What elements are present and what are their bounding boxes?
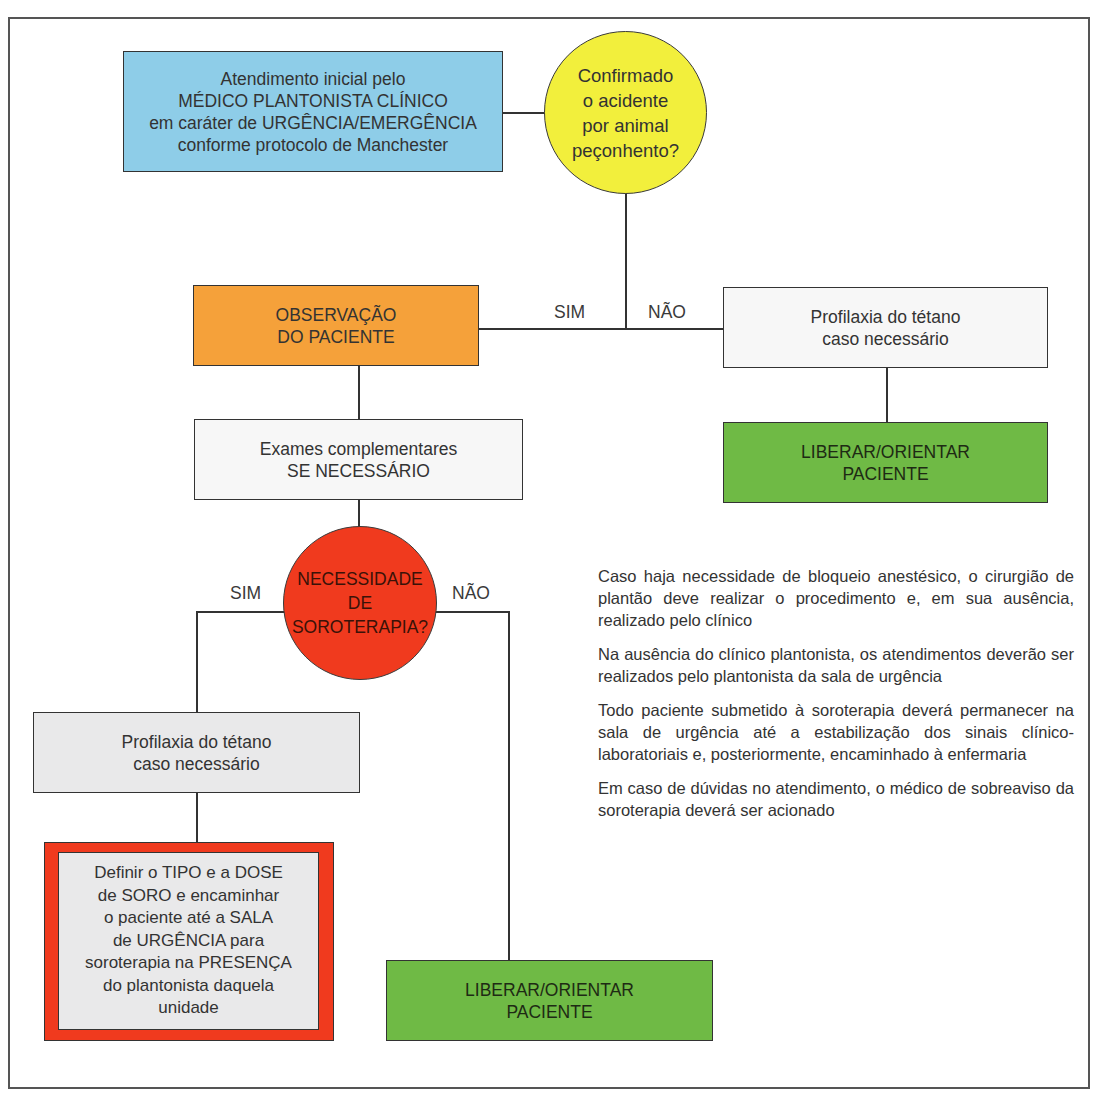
connector-yes-down: [196, 611, 198, 713]
connector-start-to-decision1: [502, 112, 546, 114]
decision-venomous-accident: Confirmado o acidente por animal peçonhe…: [544, 31, 707, 194]
note-anesthetic-block: Caso haja necessidade de bloqueio anesté…: [598, 565, 1074, 631]
connector-decision2-no: [434, 611, 509, 613]
start-box-text: Atendimento inicial pelo MÉDICO PLANTONI…: [149, 68, 477, 156]
release-bottom-text: LIBERAR/ORIENTAR PACIENTE: [465, 979, 634, 1023]
connector-observation-to-tetanus-right: [478, 328, 724, 330]
note-absence-clinician: Na ausência do clínico plantonista, os a…: [598, 643, 1074, 687]
note-serum-observation: Todo paciente submetido à soroterapia de…: [598, 699, 1074, 765]
observation-box-text: OBSERVAÇÃO DO PACIENTE: [276, 304, 397, 348]
decision-serum-therapy: NECESSIDADE DE SOROTERAPIA?: [283, 526, 437, 680]
connector-tetanus-right-to-release: [886, 367, 888, 423]
connector-tetanus-left-to-serum: [196, 792, 198, 843]
connector-exams-to-decision2: [358, 499, 360, 527]
release-patient-right-box: LIBERAR/ORIENTAR PACIENTE: [723, 422, 1048, 503]
tetanus-right-text: Profilaxia do tétano caso necessário: [811, 306, 961, 350]
start-box: Atendimento inicial pelo MÉDICO PLANTONI…: [123, 51, 503, 172]
connector-observation-to-exams: [358, 365, 360, 420]
connector-no-down: [508, 611, 510, 961]
tetanus-prophylaxis-left-box: Profilaxia do tétano caso necessário: [33, 712, 360, 793]
complementary-exams-box: Exames complementares SE NECESSÁRIO: [194, 419, 523, 500]
decision-1-text: Confirmado o acidente por animal peçonhe…: [572, 63, 679, 163]
tetanus-prophylaxis-right-box: Profilaxia do tétano caso necessário: [723, 287, 1048, 368]
observation-box: OBSERVAÇÃO DO PACIENTE: [193, 285, 479, 366]
note-doubts-contact: Em caso de dúvidas no atendimento, o méd…: [598, 777, 1074, 821]
release-patient-bottom-box: LIBERAR/ORIENTAR PACIENTE: [386, 960, 713, 1041]
notes-section: Caso haja necessidade de bloqueio anesté…: [598, 565, 1074, 833]
release-right-text: LIBERAR/ORIENTAR PACIENTE: [801, 441, 970, 485]
serum-therapy-box-outer: Definir o TIPO e a DOSE de SORO e encami…: [44, 842, 334, 1041]
serum-therapy-box: Definir o TIPO e a DOSE de SORO e encami…: [58, 852, 319, 1030]
tetanus-left-text: Profilaxia do tétano caso necessário: [122, 731, 272, 775]
decision-2-no-label: NÃO: [452, 583, 490, 604]
decision-2-text: NECESSIDADE DE SOROTERAPIA?: [292, 567, 428, 639]
decision-2-yes-label: SIM: [230, 583, 261, 604]
serum-box-text: Definir o TIPO e a DOSE de SORO e encami…: [85, 862, 292, 1020]
connector-decision2-yes: [196, 611, 286, 613]
decision-1-yes-label: SIM: [554, 302, 585, 323]
decision-1-no-label: NÃO: [648, 302, 686, 323]
exams-box-text: Exames complementares SE NECESSÁRIO: [260, 438, 457, 482]
connector-decision1-down: [625, 193, 627, 328]
